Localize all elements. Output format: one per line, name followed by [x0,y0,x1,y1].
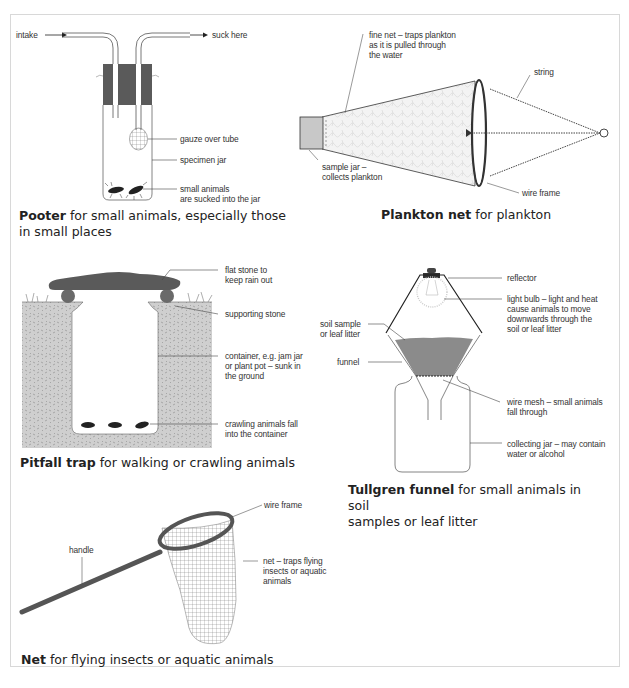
plankton-string-label: string [534,67,554,77]
pooter-suck-here-label: suck here [212,30,247,40]
pitfall-caption-text: for walking or crawling animals [96,455,295,470]
pooter-caption-title: Pooter [19,208,66,223]
pitfall-caption: Pitfall trap for walking or crawling ani… [20,455,295,471]
tullgren-collecting-jar-label: collecting jar – may contain water or al… [507,439,605,459]
net-caption-title: Net [21,652,46,667]
tullgren-funnel-label: funnel [337,357,359,367]
pooter-gauze-label: gauze over tube [180,134,239,144]
net-net-label: net – traps flying insects or aquatic an… [263,556,326,586]
plankton-fine-net-label: fine net – traps plankton as it is pulle… [369,30,456,60]
tullgren-caption-title: Tullgren funnel [348,482,454,497]
pitfall-container-label: container, e.g. jam jar or plant pot – s… [225,351,303,381]
pooter-illustration [45,33,208,201]
plankton-wire-frame-label: wire frame [522,188,560,198]
tullgren-funnel-illustration [368,268,502,472]
pitfall-trap-illustration [22,270,218,448]
pitfall-caption-title: Pitfall trap [20,455,96,470]
tullgren-soil-sample-label: soil sample or leaf litter [320,319,361,339]
plankton-caption: Plankton net for plankton [381,207,551,223]
pooter-caption: Pooter for small animals, especially tho… [19,208,286,240]
pooter-intake-label: intake [16,30,38,40]
plankton-sample-jar-label: sample jar – collects plankton [322,162,382,182]
plankton-caption-title: Plankton net [381,207,471,222]
pitfall-flat-stone-label: flat stone to keep rain out [225,265,272,285]
pitfall-crawling-label: crawling animals fall into the container [225,419,298,439]
net-handle-label: handle [69,545,94,555]
tullgren-light-bulb-label: light bulb – light and heat cause animal… [507,294,597,334]
tullgren-wire-mesh-label: wire mesh – small animals fall through [507,397,603,417]
net-caption: Net for flying insects or aquatic animal… [21,652,274,668]
tullgren-reflector-label: reflector [507,273,536,283]
plankton-caption-text: for plankton [471,207,551,222]
pooter-animals-label: small animals are sucked into the jar [180,184,260,204]
net-caption-text: for flying insects or aquatic animals [46,652,274,667]
pitfall-supporting-stone-label: supporting stone [225,309,285,319]
sweep-net-illustration [22,505,262,644]
net-wire-frame-label: wire frame [264,500,302,510]
tullgren-caption: Tullgren funnel for small animals in soi… [348,482,598,530]
pooter-jar-label: specimen jar [180,155,226,165]
